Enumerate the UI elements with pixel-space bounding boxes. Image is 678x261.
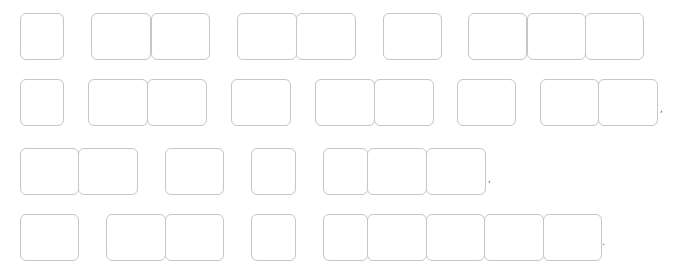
- punctuation-mark-1: ,: [660, 105, 663, 114]
- outline-box-row1-7: [468, 13, 527, 60]
- outline-box-row2-2: [88, 79, 148, 126]
- outline-box-row2-7: [457, 79, 516, 126]
- outline-box-row3-6: [367, 148, 427, 195]
- outline-box-row3-1: [20, 148, 79, 195]
- outline-box-row4-1: [20, 214, 79, 261]
- outline-box-row3-3: [165, 148, 224, 195]
- outline-box-row1-6: [383, 13, 442, 60]
- outline-box-row1-2: [91, 13, 151, 60]
- outline-box-row2-3: [147, 79, 207, 126]
- outline-box-row4-4: [251, 214, 296, 261]
- outline-box-row3-5: [323, 148, 368, 195]
- outline-box-row4-3: [165, 214, 224, 261]
- outline-box-row4-7: [426, 214, 485, 261]
- outline-box-row4-8: [484, 214, 544, 261]
- outline-box-row4-2: [106, 214, 166, 261]
- outline-box-row4-5: [323, 214, 368, 261]
- outline-box-row4-9: [543, 214, 602, 261]
- punctuation-mark-3: .: [602, 238, 605, 247]
- outline-box-row1-1: [20, 13, 64, 60]
- outline-box-row2-9: [598, 79, 658, 126]
- outline-box-row1-5: [296, 13, 356, 60]
- outline-box-row2-5: [315, 79, 375, 126]
- outline-box-row1-9: [585, 13, 644, 60]
- outline-box-row2-4: [231, 79, 291, 126]
- outline-box-row1-3: [151, 13, 210, 60]
- outline-box-row2-6: [374, 79, 434, 126]
- punctuation-mark-2: ,: [488, 175, 491, 184]
- outline-box-row1-4: [237, 13, 297, 60]
- outline-box-row1-8: [527, 13, 586, 60]
- outline-box-row2-8: [540, 79, 599, 126]
- outline-box-row2-1: [20, 79, 64, 126]
- outline-box-row4-6: [367, 214, 427, 261]
- outline-box-row3-2: [78, 148, 138, 195]
- outline-box-row3-4: [251, 148, 296, 195]
- outline-box-row3-7: [426, 148, 486, 195]
